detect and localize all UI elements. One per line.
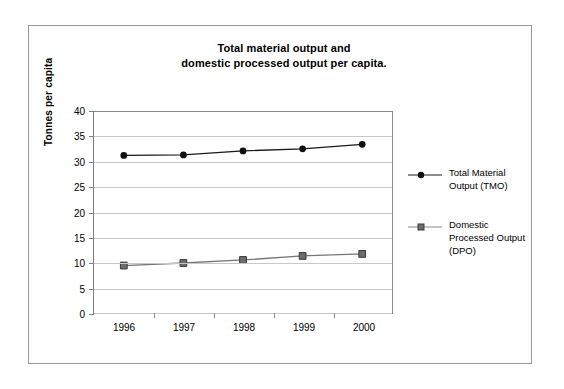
chart-title-line-1: Total material output and xyxy=(99,41,469,56)
chart-frame: Total material output and domestic proce… xyxy=(28,25,532,364)
legend-label-dpo-line-2: Processed Output xyxy=(449,231,527,244)
data-point-tmo-1997 xyxy=(180,152,187,159)
gridline-0 xyxy=(94,313,392,314)
y-tick-15 xyxy=(89,238,94,239)
legend-label-dpo-line-3: (DPO) xyxy=(449,244,527,257)
legend-marker-circle-icon xyxy=(407,170,443,180)
y-axis-label-0: 0 xyxy=(79,309,85,320)
chart-legend: Total Material Output (TMO) Domestic Pro… xyxy=(407,166,527,283)
chart-title-line-2: domestic processed output per capita. xyxy=(99,56,469,71)
legend-label-tmo-line-1: Total Material xyxy=(449,166,527,179)
data-point-tmo-1999 xyxy=(299,145,306,152)
legend-marker-square-icon xyxy=(407,222,443,232)
y-tick-25 xyxy=(89,187,94,188)
y-tick-10 xyxy=(89,263,94,264)
data-point-dpo-2000 xyxy=(359,251,366,258)
data-point-tmo-1996 xyxy=(120,152,127,159)
y-tick-30 xyxy=(89,162,94,163)
gridline-40 xyxy=(94,111,392,112)
y-tick-35 xyxy=(89,136,94,137)
x-axis-label-1996: 1996 xyxy=(113,322,135,333)
x-tick-2 xyxy=(214,313,215,318)
y-axis-label-5: 5 xyxy=(79,283,85,294)
legend-entry-tmo: Total Material Output (TMO) xyxy=(407,166,527,192)
y-axis-label-25: 25 xyxy=(74,182,85,193)
y-tick-40 xyxy=(89,111,94,112)
gridline-35 xyxy=(94,136,392,137)
x-axis-label-1998: 1998 xyxy=(233,322,255,333)
chart-title: Total material output and domestic proce… xyxy=(99,41,469,71)
y-axis-title: Tonnes per capita xyxy=(43,58,54,146)
data-point-tmo-1998 xyxy=(240,148,247,155)
gridline-15 xyxy=(94,238,392,239)
x-axis-label-2000: 2000 xyxy=(353,322,375,333)
x-tick-3 xyxy=(274,313,275,318)
plot-area: 051015202530354019961997199819992000 xyxy=(93,111,393,314)
y-tick-0 xyxy=(89,314,94,315)
y-axis-label-40: 40 xyxy=(74,106,85,117)
x-tick-4 xyxy=(334,313,335,318)
y-axis-label-10: 10 xyxy=(74,258,85,269)
y-axis-label-20: 20 xyxy=(74,207,85,218)
y-axis-label-15: 15 xyxy=(74,232,85,243)
y-axis-label-30: 30 xyxy=(74,156,85,167)
legend-label-dpo-line-1: Domestic xyxy=(449,218,527,231)
gridline-20 xyxy=(94,213,392,214)
gridline-25 xyxy=(94,187,392,188)
gridline-30 xyxy=(94,162,392,163)
gridline-5 xyxy=(94,289,392,290)
x-axis-label-1997: 1997 xyxy=(173,322,195,333)
gridline-10 xyxy=(94,263,392,264)
data-point-tmo-2000 xyxy=(359,141,366,148)
legend-label-tmo-line-2: Output (TMO) xyxy=(449,179,527,192)
y-tick-20 xyxy=(89,213,94,214)
x-tick-1 xyxy=(154,313,155,318)
y-tick-5 xyxy=(89,289,94,290)
x-axis-label-1999: 1999 xyxy=(293,322,315,333)
legend-entry-dpo: Domestic Processed Output (DPO) xyxy=(407,218,527,257)
data-point-dpo-1999 xyxy=(299,253,306,260)
y-axis-label-35: 35 xyxy=(74,131,85,142)
